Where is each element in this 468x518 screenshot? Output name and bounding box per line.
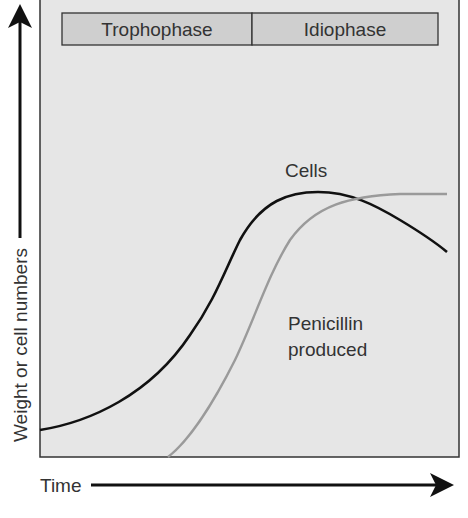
- plot-area: [40, 0, 459, 457]
- phase-band: Trophophase Idiophase: [62, 13, 438, 45]
- penicillin-label-line2: produced: [288, 339, 367, 360]
- phase-idiophase-label: Idiophase: [304, 19, 386, 40]
- cells-label: Cells: [285, 160, 327, 181]
- x-axis-label: Time: [40, 475, 82, 496]
- chart: Trophophase Idiophase Cells Penicillin p…: [0, 0, 468, 518]
- y-axis-label: Weight or cell numbers: [10, 248, 31, 442]
- penicillin-label-line1: Penicillin: [288, 313, 363, 334]
- phase-trophophase-label: Trophophase: [101, 19, 212, 40]
